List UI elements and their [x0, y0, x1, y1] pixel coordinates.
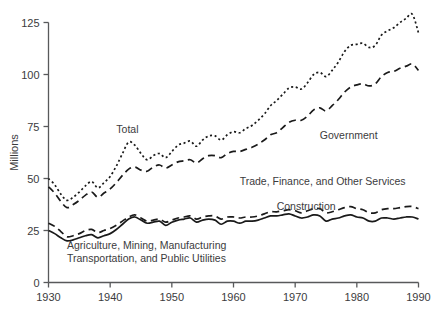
series-line	[49, 214, 419, 241]
y-axis-title: Millions	[8, 134, 20, 171]
series-line	[49, 14, 419, 201]
x-tick-label: 1930	[36, 291, 60, 303]
y-tick-label: 100	[21, 69, 39, 81]
y-axis-ticks: 0255075100125	[21, 17, 48, 289]
x-tick-label: 1980	[345, 291, 369, 303]
series-annotation: Government	[320, 129, 378, 141]
y-tick-label: 25	[27, 225, 39, 237]
series-annotation: Trade, Finance, and Other Services	[240, 175, 406, 187]
x-tick-label: 1950	[160, 291, 184, 303]
series-annotation: Transportation, and Public Utilities	[67, 252, 226, 264]
y-tick-label: 50	[27, 173, 39, 185]
series-annotation: Construction	[277, 200, 336, 212]
data-series	[49, 14, 419, 241]
chart-figure: 0255075100125 19301940195019601970198019…	[0, 0, 446, 314]
y-tick-label: 125	[21, 17, 39, 29]
series-annotations: TotalGovernmentTrade, Finance, and Other…	[67, 123, 406, 264]
y-tick-label: 75	[27, 121, 39, 133]
x-tick-label: 1990	[406, 291, 430, 303]
series-annotation: Agriculture, Mining, Manufacturing	[67, 239, 226, 251]
employment-line-chart: 0255075100125 19301940195019601970198019…	[0, 0, 446, 314]
series-annotation: Total	[116, 123, 138, 135]
x-tick-label: 1940	[98, 291, 122, 303]
x-axis-ticks: 1930194019501960197019801990	[36, 283, 430, 303]
y-tick-label: 0	[33, 277, 39, 289]
x-tick-label: 1960	[221, 291, 245, 303]
x-tick-label: 1970	[283, 291, 307, 303]
